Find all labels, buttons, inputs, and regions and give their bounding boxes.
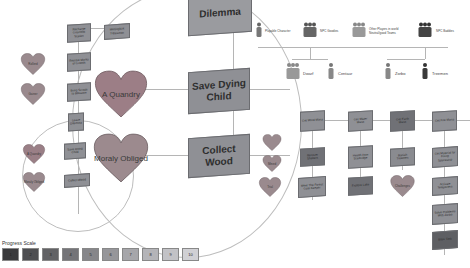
box-collect-wood-small[interactable]: Collect Wood: [64, 173, 90, 188]
connector: [387, 59, 425, 60]
label-npc-baddies: NPC Baddies: [436, 30, 454, 34]
label-zorbo: Zorbo: [395, 72, 405, 76]
box-save-child-small[interactable]: Save Dying Child: [64, 142, 86, 160]
heart-a-quandry[interactable]: A Quandry: [93, 70, 149, 118]
box-fire-mana[interactable]: Get Fire Mana: [432, 110, 457, 132]
label-dwarf: Dwarf: [303, 72, 313, 76]
connector: [258, 47, 448, 48]
heart-challenges[interactable]: Challenges: [389, 175, 416, 197]
playable-character-icon: [255, 22, 263, 42]
dwarf-icon: [286, 62, 300, 84]
box-earth-mana[interactable]: Get Earth Mana: [390, 110, 415, 132]
scale-level-3: 3: [42, 248, 59, 261]
label-treemen: Treemen: [432, 72, 448, 76]
box-recover-shelters[interactable]: Recover Shelters: [300, 147, 325, 167]
box-boss-task[interactable]: Boss Task: [432, 230, 458, 250]
heart-quandry-small[interactable]: A Quandry: [22, 144, 46, 164]
connector: [292, 59, 328, 60]
box-bring[interactable]: Bring Scraps to Blossom: [67, 82, 91, 102]
box-solve-zorbo[interactable]: Solve Problems With Zorbo: [432, 203, 458, 225]
scale-level-9: 9: [162, 248, 179, 261]
heart-moraly-obliged[interactable]: Moraly Obliged: [93, 133, 149, 183]
scale-level-5: 5: [82, 248, 99, 261]
box-save-dying-child[interactable]: Save Dying Child: [188, 68, 250, 114]
heart-trial[interactable]: Trial: [258, 177, 282, 197]
box-dilemma[interactable]: Dilemma: [188, 0, 252, 36]
box-leave[interactable]: Leave Dilemma: [68, 112, 84, 131]
other-players-icon: [352, 22, 366, 42]
box-health[interactable]: Health from Starbridge: [348, 145, 373, 169]
scale-level-1: 1: [2, 248, 19, 261]
box-restore[interactable]: Restore Marks of Growth: [67, 52, 91, 72]
heart-obliged-small[interactable]: Moraly Obliged: [22, 172, 46, 192]
box-collect-wood[interactable]: Collect Wood: [188, 134, 250, 178]
progress-scale-title: Progress Scale: [2, 240, 36, 246]
npc-goodies-icon: [303, 22, 317, 42]
scale-level-7: 7: [122, 248, 139, 261]
box-spacestrip[interactable]: Get Material for Fixing Spacestrip: [432, 146, 458, 168]
box-teleporters[interactable]: Activate Teleporters: [432, 176, 458, 196]
scale-level-4: 4: [62, 248, 79, 261]
box-explore-lake[interactable]: Explore Lake: [348, 176, 373, 196]
box-tribesman[interactable]: Meltingkirk Tribesman: [104, 23, 130, 40]
scale-level-2: 2: [22, 248, 39, 261]
heart-mined[interactable]: Mined: [262, 155, 282, 172]
heart-rollerd[interactable]: Rollerd: [20, 53, 46, 75]
scale-level-6: 6: [102, 248, 119, 261]
label-playable: Playable Character: [265, 30, 291, 34]
progress-scale: 1 2 3 4 5 6 7 8 9 10: [2, 248, 199, 261]
label-npc-goodies: NPC Goodies: [320, 30, 338, 34]
heart-gainer[interactable]: Gainer: [20, 83, 46, 105]
zorbo-icon: [384, 62, 392, 84]
label-centaur: Centaur: [338, 72, 352, 76]
npc-baddies-icon: [418, 22, 432, 42]
heart-side-1[interactable]: [262, 134, 282, 151]
connector: [425, 47, 426, 59]
box-water-mana[interactable]: Get Water Mana: [348, 110, 373, 132]
scale-level-8: 8: [142, 248, 159, 261]
box-gate-keeper[interactable]: Meet The Forest Gate Keeper: [298, 176, 326, 198]
heart-icon: [262, 134, 282, 151]
label-other-players: Other Players in world Neutral/good Team…: [369, 28, 405, 35]
treemen-icon: [421, 62, 429, 84]
box-recharge[interactable]: Recharge Gnarlfoot Station: [67, 23, 91, 43]
box-banish-treemen[interactable]: Banish Treemen: [390, 147, 415, 167]
connector: [310, 47, 311, 59]
box-wind-mana[interactable]: Get Wind Mana: [300, 110, 325, 132]
scale-level-10: 10: [182, 248, 199, 261]
centaur-icon: [327, 62, 335, 84]
